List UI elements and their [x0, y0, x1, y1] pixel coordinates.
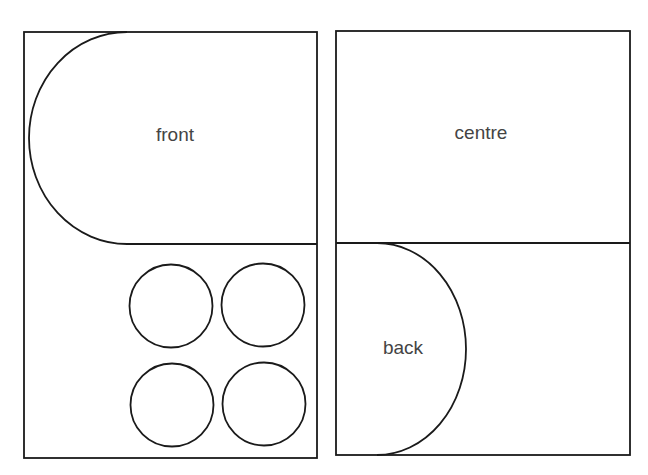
left-panel: front: [24, 32, 317, 458]
circle-bottom-right: [223, 363, 306, 446]
centre-label: centre: [455, 122, 508, 143]
circle-grid: [130, 264, 306, 447]
circle-top-right: [222, 264, 305, 347]
back-label: back: [383, 337, 424, 358]
circle-top-left: [130, 265, 213, 348]
left-panel-frame: [24, 32, 317, 458]
right-panel: centre back: [336, 31, 630, 455]
layout-diagram: front centre back: [0, 0, 648, 475]
front-label: front: [156, 124, 195, 145]
circle-bottom-left: [131, 364, 214, 447]
